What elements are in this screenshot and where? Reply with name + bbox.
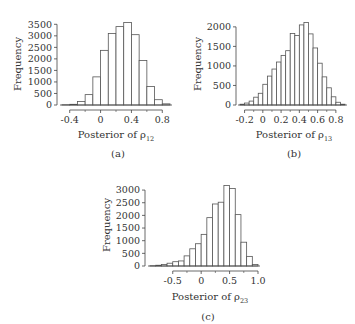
- histogram-bar: [241, 242, 247, 266]
- x-tick-label: 0.4: [124, 114, 139, 125]
- x-axis-title: Posterior of ρ23: [172, 291, 248, 305]
- histogram-bar: [101, 50, 109, 105]
- panel-label-a: (a): [111, 148, 125, 159]
- histogram-bar: [249, 101, 254, 105]
- y-tick-label: 1500: [116, 222, 140, 233]
- histogram-bars: [60, 22, 172, 105]
- x-tick-label: 0.6: [310, 114, 325, 125]
- y-tick-label: 2500: [116, 197, 140, 208]
- histogram-bar: [184, 256, 190, 266]
- y-tick-label: 500: [213, 80, 231, 91]
- histogram-bar: [247, 256, 253, 266]
- histogram-bar: [254, 97, 259, 105]
- histogram-bar: [116, 27, 124, 105]
- histogram-bar: [299, 25, 304, 105]
- histogram-bar: [290, 34, 295, 105]
- x-tick-label: 0.5: [222, 275, 237, 286]
- y-axis: 050010001500200025003000: [116, 184, 145, 271]
- histogram-bar: [295, 35, 300, 105]
- y-tick-label: 500: [34, 88, 52, 99]
- y-tick-label: 0: [225, 99, 231, 110]
- y-tick-label: 1000: [207, 60, 231, 71]
- histogram-bar: [147, 87, 155, 105]
- histogram-bar: [327, 88, 332, 105]
- histogram-bar: [167, 263, 173, 266]
- histogram-panel-c: 050010001500200025003000 -0.500.51.0 Fre…: [101, 184, 266, 322]
- x-tick-label: 0: [260, 114, 266, 125]
- x-tick-label: 0.4: [292, 114, 307, 125]
- y-tick-label: 0: [46, 99, 52, 110]
- histogram-bar: [286, 51, 291, 105]
- y-tick-label: 1000: [116, 235, 140, 246]
- histogram-panel-a: 0500100015002000250030003500 -0.400.40.8…: [12, 19, 172, 159]
- x-tick-label: 1.0: [250, 275, 265, 286]
- histogram-bar: [195, 244, 201, 266]
- x-axis: -0.500.51.0: [164, 271, 266, 286]
- panel-label-b: (b): [287, 148, 301, 159]
- histogram-bar: [272, 69, 277, 105]
- histogram-bars: [238, 23, 347, 105]
- histogram-bar: [336, 102, 341, 105]
- y-tick-label: 3000: [116, 184, 140, 195]
- histogram-bar: [131, 35, 139, 105]
- histogram-bar: [77, 102, 85, 105]
- x-tick-label: 0: [198, 275, 204, 286]
- histogram-bar: [304, 23, 309, 105]
- histogram-bar: [267, 76, 272, 105]
- y-tick-label: 3000: [28, 30, 52, 41]
- histogram-bar: [139, 61, 147, 105]
- histogram-bar: [313, 48, 318, 105]
- histogram-bar: [263, 84, 268, 105]
- y-tick-label: 2000: [116, 210, 140, 221]
- histogram-bar: [93, 77, 101, 105]
- y-axis-title: Frequency: [192, 37, 203, 91]
- histogram-figure: 0500100015002000250030003500 -0.400.40.8…: [0, 0, 355, 324]
- x-tick-label: 0: [98, 114, 104, 125]
- panel-label-c: (c): [201, 311, 215, 322]
- x-tick-label: 0.2: [274, 114, 289, 125]
- x-axis: -0.400.40.8: [61, 110, 170, 125]
- y-axis: 0500100015002000: [207, 21, 236, 110]
- y-tick-label: 1500: [28, 65, 52, 76]
- histogram-bar: [108, 34, 116, 105]
- histogram-bar: [201, 234, 207, 266]
- histogram-bar: [155, 100, 163, 105]
- x-axis: -0.200.20.40.60.8: [235, 110, 343, 125]
- histogram-bar: [230, 189, 236, 266]
- y-tick-label: 1500: [207, 41, 231, 52]
- histogram-bar: [281, 55, 286, 105]
- histogram-bar: [190, 249, 196, 266]
- histogram-bar: [318, 63, 323, 105]
- histogram-bar: [235, 215, 241, 266]
- x-tick-label: 0.8: [328, 114, 343, 125]
- histogram-bar: [213, 204, 219, 266]
- histogram-bar: [173, 262, 179, 266]
- y-tick-label: 500: [122, 248, 140, 259]
- x-tick-label: -0.2: [235, 114, 253, 125]
- histogram-bar: [322, 77, 327, 105]
- histogram-panel-b: 0500100015002000 -0.200.20.40.60.8 Frequ…: [192, 21, 347, 159]
- y-tick-label: 2000: [207, 21, 231, 32]
- histogram-bar: [331, 97, 336, 105]
- x-tick-label: -0.4: [61, 114, 79, 125]
- y-axis-title: Frequency: [101, 198, 112, 252]
- y-tick-label: 1000: [28, 76, 52, 87]
- histogram-bar: [124, 22, 132, 105]
- y-axis-title: Frequency: [12, 37, 23, 91]
- x-axis-title: Posterior of ρ13: [256, 129, 332, 143]
- histogram-bar: [207, 218, 213, 266]
- histogram-bar: [258, 93, 263, 105]
- histogram-bar: [277, 62, 282, 105]
- histogram-bar: [218, 202, 224, 266]
- x-tick-label: -0.5: [164, 275, 182, 286]
- y-tick-label: 2500: [28, 42, 52, 53]
- y-axis: 0500100015002000250030003500: [28, 19, 57, 111]
- y-tick-label: 0: [134, 260, 140, 271]
- y-tick-label: 2000: [28, 53, 52, 64]
- histogram-bar: [224, 186, 230, 266]
- x-axis-title: Posterior of ρ12: [78, 129, 154, 143]
- histogram-bar: [85, 95, 93, 105]
- histogram-bars: [148, 186, 260, 266]
- histogram-bar: [308, 34, 313, 105]
- y-tick-label: 3500: [28, 19, 52, 30]
